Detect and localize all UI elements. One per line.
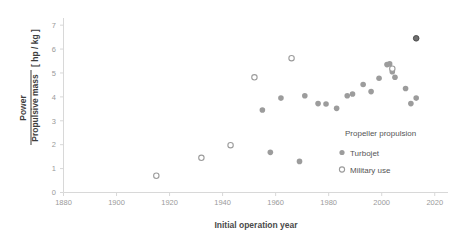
data-point-military-use xyxy=(252,75,257,80)
y-tick-label: 5 xyxy=(52,69,56,78)
x-tick-label: 1920 xyxy=(161,198,178,207)
y-tick-label: 0 xyxy=(52,188,56,197)
x-tick-label: 1900 xyxy=(108,198,125,207)
data-point-turbojet xyxy=(413,95,419,101)
data-point-turbojet xyxy=(302,93,308,99)
y-axis-numerator: Power xyxy=(18,95,28,121)
legend: Propeller propulsion Turbojet Military u… xyxy=(339,129,416,175)
y-tick-label: 2 xyxy=(52,140,56,149)
data-points xyxy=(154,36,419,179)
data-point-military-use xyxy=(228,142,233,147)
legend-label-military-use: Military use xyxy=(350,166,391,175)
y-tick-label: 1 xyxy=(52,164,56,173)
data-point-military-use xyxy=(289,55,294,60)
data-point-turbojet xyxy=(376,75,382,81)
x-tick-label: 1880 xyxy=(55,198,72,207)
data-point-turbojet xyxy=(392,74,398,80)
data-point-military-use xyxy=(390,66,395,71)
y-tick-label: 7 xyxy=(52,21,56,30)
legend-label-turbojet: Turbojet xyxy=(350,149,380,158)
x-tick-label: 2020 xyxy=(426,198,443,207)
x-axis-title: Initial operation year xyxy=(214,220,298,230)
data-point-military-use xyxy=(199,155,204,160)
y-tick-label: 4 xyxy=(52,93,56,102)
data-point-turbojet xyxy=(360,82,366,88)
data-point-turbojet xyxy=(278,95,284,101)
data-point-turbojet xyxy=(408,101,414,107)
data-point-turbojet xyxy=(297,159,303,165)
x-tick-label: 1960 xyxy=(267,198,284,207)
data-point-turbojet xyxy=(315,101,321,107)
data-point-turbojet xyxy=(260,107,266,113)
x-tick-label: 1940 xyxy=(214,198,231,207)
data-point-turbojet xyxy=(350,91,356,97)
data-point-turbojet xyxy=(413,36,419,42)
y-tick-label: 6 xyxy=(52,45,56,54)
legend-marker-military-use xyxy=(339,167,344,172)
chart-canvas: 01234567 1880190019201940196019802000202… xyxy=(0,0,464,246)
data-point-turbojet xyxy=(323,101,329,107)
scatter-chart: 01234567 1880190019201940196019802000202… xyxy=(0,0,464,246)
x-axis-ticks: 18801900192019401960198020002020 xyxy=(55,193,443,208)
legend-title: Propeller propulsion xyxy=(345,129,416,138)
legend-marker-turbojet xyxy=(339,150,344,155)
y-axis-label: Power Propulsive mass [ hp / kg ] xyxy=(18,29,40,145)
y-axis-ticks: 01234567 xyxy=(52,21,64,197)
data-point-turbojet xyxy=(344,93,350,99)
y-axis-denominator: Propulsive mass xyxy=(30,74,40,142)
data-point-military-use xyxy=(154,173,159,178)
y-tick-label: 3 xyxy=(52,117,56,126)
y-axis-unit: [ hp / kg ] xyxy=(30,29,40,67)
data-point-turbojet xyxy=(268,150,274,156)
x-tick-label: 2000 xyxy=(373,198,390,207)
x-tick-label: 1980 xyxy=(320,198,337,207)
data-point-turbojet xyxy=(368,89,374,95)
data-point-turbojet xyxy=(334,106,340,112)
data-point-turbojet xyxy=(403,86,409,92)
